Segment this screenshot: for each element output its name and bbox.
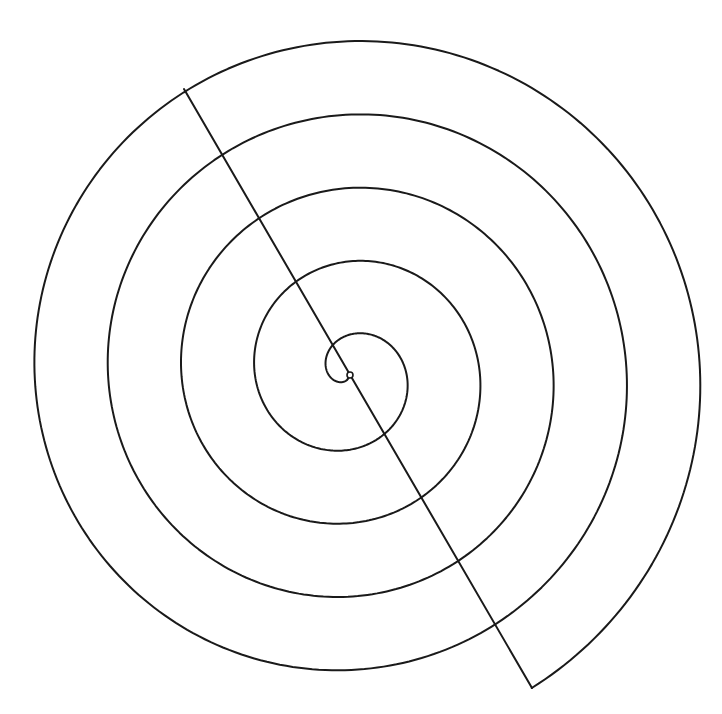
center-point-marker xyxy=(347,372,353,378)
archimedean-spiral-curve xyxy=(34,41,700,688)
spiral-diagram xyxy=(0,0,722,714)
